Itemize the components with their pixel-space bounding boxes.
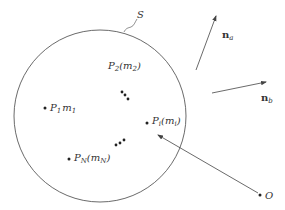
particle-p2-label: P2(m2): [107, 60, 141, 73]
normal-vector-na-label: na: [222, 29, 233, 42]
particle-pi-dot: [146, 122, 149, 125]
diagram-canvas: S P1m1 P2(m2) Pi(mi) PN(mN) O na nb: [0, 0, 285, 210]
particle-pn-label: PN(mN): [73, 152, 110, 165]
particle-p1-dot: [44, 107, 47, 110]
particle-pn-dot: [68, 158, 71, 161]
surface-label-leader: [124, 19, 137, 32]
normal-vector-na-arrow: [196, 16, 216, 70]
origin-label: O: [265, 190, 273, 201]
surface-label-s: S: [137, 9, 144, 20]
ellipsis-dots-lower: [115, 139, 126, 147]
normal-vector-nb-arrow: [212, 82, 266, 93]
particle-pi-label: Pi(mi): [151, 115, 181, 128]
particle-p1-label: P1m1: [49, 102, 76, 115]
origin-dot: [259, 194, 262, 197]
normal-vector-nb-label: nb: [261, 92, 273, 105]
ellipsis-dots-upper: [121, 91, 130, 101]
position-vector-arrow: [158, 135, 258, 193]
